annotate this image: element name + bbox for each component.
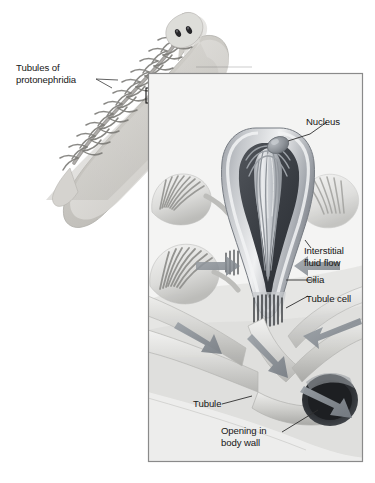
label-interstitial-fluid-flow: Interstitial fluid flow (304, 245, 370, 268)
protonephridia-figure: Tubules of protonephridia Nucleus Inters… (0, 0, 375, 483)
label-tubule: Tubule (193, 398, 241, 410)
label-nucleus: Nucleus (306, 116, 366, 128)
label-cilia: Cilia (306, 274, 356, 286)
label-opening-in-body-wall: Opening in body wall (221, 425, 291, 448)
planarian-eyespot-left-sheen (176, 30, 178, 33)
label-tubule-cell: Tubule cell (306, 293, 372, 305)
label-tubules-of-protonephridia: Tubules of protonephridia (16, 62, 108, 85)
inset-content (148, 73, 364, 463)
planarian-eyespot-right-sheen (187, 27, 189, 30)
